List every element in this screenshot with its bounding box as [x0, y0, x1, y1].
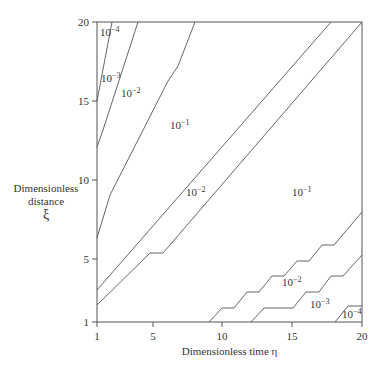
region-label: 10−2: [186, 185, 206, 198]
x-axis: 1 5 10 15 20: [94, 322, 368, 342]
y-axis-title-line1: Dimensionless: [0, 182, 92, 195]
x-tick-label: 20: [357, 330, 369, 342]
region-label: 10−4: [342, 307, 362, 320]
plot-frame: [97, 22, 362, 322]
contour-line: [97, 22, 331, 290]
region-label: 10−3: [310, 297, 330, 310]
region-label: 10−2: [121, 86, 141, 99]
y-tick-label: 15: [78, 95, 90, 107]
region-label: 10−3: [101, 71, 121, 84]
y-tick-label: 20: [78, 16, 90, 28]
x-tick-label: 5: [150, 330, 156, 342]
y-tick-label: 5: [84, 253, 90, 265]
contour-line: [97, 22, 362, 305]
region-labels: 10−4 10−3 10−2 10−1 10−2 10−1 10−2 10−3 …: [100, 25, 362, 320]
x-axis-title: Dimensionless time η: [97, 345, 362, 357]
y-axis-symbol: ξ: [0, 208, 92, 221]
x-tick-label: 15: [287, 330, 299, 342]
y-tick-label: 1: [84, 316, 90, 328]
y-axis: 1 5 10 15 20: [78, 16, 97, 328]
region-label: 10−2: [282, 275, 302, 288]
contour-lines: [97, 22, 362, 322]
contour-line: [209, 212, 362, 322]
region-label: 10−1: [170, 118, 190, 131]
y-axis-title: Dimensionless distance ξ: [0, 182, 92, 221]
x-tick-label: 10: [217, 330, 229, 342]
contour-line: [97, 22, 138, 147]
x-tick-label: 1: [94, 330, 100, 342]
region-label: 10−1: [292, 185, 312, 198]
region-label: 10−4: [100, 25, 120, 38]
